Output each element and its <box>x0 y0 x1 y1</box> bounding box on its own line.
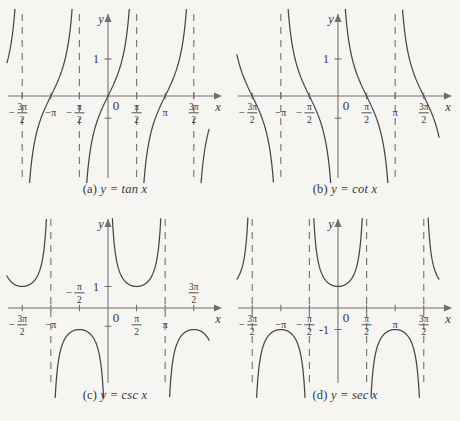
y-axis-label: y <box>326 12 334 26</box>
svg-text:2: 2 <box>191 115 196 125</box>
origin-label: 0 <box>113 98 120 113</box>
svg-text:π: π <box>134 102 139 112</box>
svg-text:2: 2 <box>191 295 196 305</box>
y-tick-label: 1 <box>93 52 99 66</box>
plot-csc: xy−3π2−π−π2π2π3π201 <box>0 205 230 390</box>
plot-cot: xy−3π2−π−π2π2π3π201 <box>230 0 460 185</box>
x-tick-label: π <box>163 107 169 118</box>
svg-text:3π: 3π <box>17 314 27 324</box>
caption-cot: (b) y = cot x <box>230 182 460 197</box>
x-axis-label: x <box>214 100 221 114</box>
x-axis-arrow <box>214 92 222 99</box>
x-axis-arrow <box>444 92 452 99</box>
svg-text:π: π <box>134 314 139 324</box>
svg-text:2: 2 <box>250 327 255 337</box>
x-tick-label: 3π2 <box>189 102 199 124</box>
svg-text:π: π <box>307 314 312 324</box>
svg-text:3π: 3π <box>17 102 27 112</box>
caption-tan: (a) y = tan x <box>0 182 230 197</box>
svg-text:2: 2 <box>77 115 82 125</box>
y-axis-arrow <box>334 219 341 227</box>
caption-csc: (c) y = csc x <box>0 388 230 403</box>
svg-text:π: π <box>307 102 312 112</box>
x-axis-label: x <box>444 312 451 326</box>
x-tick-label: −π2 <box>296 314 314 336</box>
svg-text:−: − <box>239 319 245 330</box>
y-axis-label: y <box>96 217 104 231</box>
x-tick-label: π <box>393 107 399 118</box>
svg-text:2: 2 <box>20 327 25 337</box>
svg-text:−: − <box>66 287 72 298</box>
x-tick-label: −3π2 <box>239 314 257 336</box>
plot-tan: xy−3π2−π−π2π2π3π201 <box>0 0 230 185</box>
x-tick-label: −π2 <box>66 102 84 124</box>
svg-text:−: − <box>239 107 245 118</box>
svg-text:π: π <box>77 282 82 292</box>
x-tick-label: π2 <box>362 102 372 124</box>
caption-sec-prefix: (d) <box>312 388 327 402</box>
panel-cot: xy−3π2−π−π2π2π3π201 <box>230 0 460 185</box>
panel-csc: xy−3π2−π−π2π2π3π201 <box>0 205 230 390</box>
caption-tan-prefix: (a) <box>83 182 97 196</box>
caption-csc-prefix: (c) <box>83 388 97 402</box>
function-curve <box>7 219 46 286</box>
svg-text:−: − <box>9 107 15 118</box>
svg-text:3π: 3π <box>189 102 199 112</box>
y-tick-label: 1 <box>93 280 99 294</box>
x-tick-label: −π <box>45 319 57 330</box>
y-axis-arrow <box>104 219 111 227</box>
x-axis-label: x <box>444 100 451 114</box>
origin-label: 0 <box>343 310 350 325</box>
y-tick-label: 1 <box>323 52 329 66</box>
y-axis-arrow <box>104 14 111 22</box>
x-axis-label: x <box>214 312 221 326</box>
function-curve <box>112 219 160 287</box>
x-tick-label: −3π2 <box>239 102 257 124</box>
svg-text:2: 2 <box>20 115 25 125</box>
x-tick-label: −π <box>275 319 287 330</box>
svg-text:π: π <box>364 314 369 324</box>
svg-text:2: 2 <box>364 115 369 125</box>
function-curve <box>428 218 439 279</box>
svg-text:3π: 3π <box>189 282 199 292</box>
svg-text:−: − <box>296 319 302 330</box>
x-tick-label: −π <box>45 107 57 118</box>
x-tick-label: 3π2 <box>419 102 429 124</box>
origin-label: 0 <box>343 98 350 113</box>
svg-text:−: − <box>9 319 15 330</box>
svg-text:−: − <box>296 107 302 118</box>
x-tick-label: −π2 <box>66 282 84 304</box>
x-tick-label: −3π2 <box>9 102 27 124</box>
x-tick-label: −3π2 <box>9 314 27 336</box>
svg-text:−: − <box>66 107 72 118</box>
plot-sec: xy−3π2−π−π2π2π3π20-1 <box>230 205 460 390</box>
x-tick-label: 3π2 <box>189 282 199 304</box>
x-tick-label: π <box>163 319 169 330</box>
caption-cot-prefix: (b) <box>313 182 328 196</box>
trig-graphs-figure: xy−3π2−π−π2π2π3π201 (a) y = tan x xy−3π2… <box>0 0 460 421</box>
svg-text:3π: 3π <box>419 314 429 324</box>
panel-sec: xy−3π2−π−π2π2π3π20-1 <box>230 205 460 390</box>
svg-text:2: 2 <box>307 327 312 337</box>
caption-tan-formula: y = tan x <box>101 182 148 196</box>
svg-text:3π: 3π <box>247 314 257 324</box>
y-axis-label: y <box>326 217 334 231</box>
function-curve <box>170 330 209 397</box>
x-tick-label: π <box>393 319 399 330</box>
x-tick-label: −π <box>275 107 287 118</box>
x-axis-arrow <box>444 304 452 311</box>
svg-text:2: 2 <box>134 327 139 337</box>
svg-text:2: 2 <box>77 295 82 305</box>
caption-csc-formula: y = csc x <box>101 388 148 402</box>
panel-tan: xy−3π2−π−π2π2π3π201 <box>0 0 230 185</box>
function-curve <box>201 129 209 182</box>
y-axis-label: y <box>96 12 104 26</box>
svg-text:2: 2 <box>364 327 369 337</box>
svg-text:π: π <box>364 102 369 112</box>
y-tick-label: -1 <box>319 323 329 337</box>
y-axis-arrow <box>334 14 341 22</box>
origin-label: 0 <box>113 310 120 325</box>
svg-text:2: 2 <box>250 115 255 125</box>
svg-text:π: π <box>77 102 82 112</box>
function-curve <box>7 9 15 62</box>
